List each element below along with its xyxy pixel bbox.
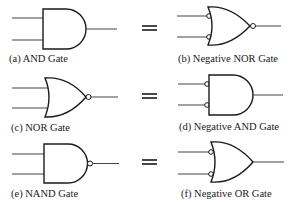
nand-gate-e [12,144,119,183]
and-gate-a [12,9,117,49]
gate-equivalence-diagram: (a) AND Gate (b) Negative NOR Gate (c) N… [0,0,297,202]
or-gate-body-icon [208,7,250,45]
negative-or-gate-f [178,142,284,182]
equals-sign-2 [142,94,157,98]
and-gate-body-icon [43,9,86,49]
and-gate-body-icon [209,75,253,115]
label-b: (b) Negative NOR Gate [178,53,278,65]
label-a: (a) AND Gate [9,53,68,65]
or-gate-body-icon [211,142,253,182]
label-e: (e) NAND Gate [11,188,78,200]
label-c: (c) NOR Gate [11,122,70,134]
equals-sign-3 [142,160,157,164]
label-f: (f) Negative OR Gate [181,188,272,200]
label-d: (d) Negative AND Gate [179,121,279,133]
equals-sign-1 [142,26,157,30]
output-bubble-icon [251,24,256,29]
input-bubble-icon [209,150,214,155]
negative-nor-gate-b [177,7,281,45]
and-gate-body-icon [44,144,88,183]
output-bubble-icon [86,95,91,100]
output-bubble-icon [88,161,93,166]
nor-gate-c [12,78,118,117]
or-gate-body-icon [45,78,86,117]
negative-and-gate-d [178,75,283,115]
